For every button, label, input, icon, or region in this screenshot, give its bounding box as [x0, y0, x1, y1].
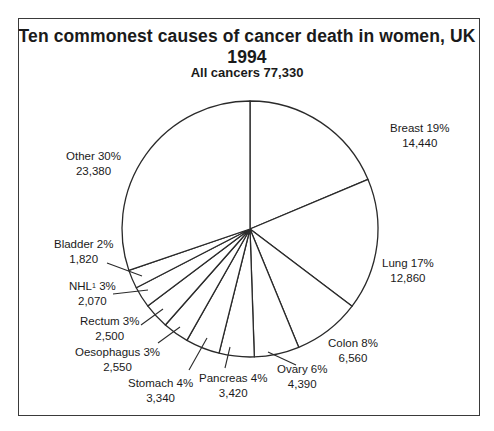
label-value: 3,420	[199, 386, 267, 401]
slice-label-other: Other 30% 23,380	[66, 149, 121, 179]
label-value: 12,860	[382, 271, 434, 286]
label-value: 14,440	[390, 136, 449, 151]
label-text: Bladder 2%	[54, 237, 113, 252]
label-value: 4,390	[277, 377, 328, 392]
label-text: NHL1 3%	[69, 279, 116, 294]
slice-label-oesophagus: Oesophagus 3% 2,550	[75, 345, 160, 375]
pie-slices	[122, 101, 378, 357]
label-percent: 3%	[99, 280, 116, 292]
label-text: Pancreas 4%	[199, 371, 267, 386]
slice-label-lung: Lung 17% 12,860	[382, 256, 434, 286]
label-text: Other 30%	[66, 149, 121, 164]
label-text: Oesophagus 3%	[75, 345, 160, 360]
label-text: Stomach 4%	[128, 376, 193, 391]
slice-label-nhl: NHL1 3% 2,070	[69, 279, 116, 309]
label-value: 2,550	[75, 360, 160, 375]
label-text: Lung 17%	[382, 256, 434, 271]
label-value: 2,500	[80, 329, 139, 344]
label-text: Breast 19%	[390, 121, 449, 136]
leader-line-oesophagus	[158, 327, 180, 343]
slice-label-bladder: Bladder 2% 1,820	[54, 237, 113, 267]
label-value: 2,070	[69, 294, 116, 309]
slice-label-pancreas: Pancreas 4% 3,420	[199, 371, 267, 401]
slice-label-colon: Colon 8% 6,560	[328, 336, 378, 366]
label-text: Colon 8%	[328, 336, 378, 351]
slice-label-stomach: Stomach 4% 3,340	[128, 376, 193, 406]
slice-label-rectum: Rectum 3% 2,500	[80, 314, 139, 344]
label-value: 6,560	[328, 351, 378, 366]
label-text: Rectum 3%	[80, 314, 139, 329]
slice-label-breast: Breast 19% 14,440	[390, 121, 449, 151]
label-text: Ovary 6%	[277, 362, 328, 377]
label-name: NHL	[69, 280, 92, 292]
label-value: 23,380	[66, 164, 121, 179]
label-value: 1,820	[54, 252, 113, 267]
label-value: 3,340	[128, 391, 193, 406]
footnote-marker: 1	[92, 282, 96, 289]
slice-label-ovary: Ovary 6% 4,390	[277, 362, 328, 392]
